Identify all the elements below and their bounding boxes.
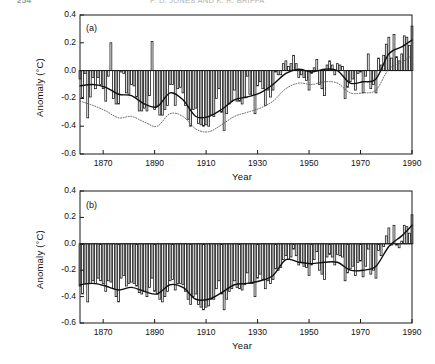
figure: Anomaly (°C) Year (a) -0.6-0.4-0.20.00.2…	[0, 0, 435, 364]
panel-b-y-axis-label: Anomaly (°C)	[34, 230, 45, 289]
panel-a-y-axis-label: Anomaly (°C)	[34, 58, 45, 117]
x-axis-tick-label: 1990	[392, 327, 432, 337]
y-axis-tick-label: -0.6	[46, 317, 76, 327]
y-axis-tick-label: 0.0	[46, 65, 76, 75]
panel-a-x-axis-label: Year	[232, 171, 252, 182]
x-axis-tick-label: 1890	[135, 327, 175, 337]
x-axis-tick-label: 1910	[186, 327, 226, 337]
y-axis-tick-label: 0.4	[46, 9, 76, 19]
x-axis-tick-label: 1970	[341, 327, 381, 337]
panel-a-tag: (a)	[86, 23, 97, 33]
x-axis-tick-label: 1910	[186, 158, 226, 168]
x-axis-tick-label: 1930	[238, 158, 278, 168]
panel-a: Anomaly (°C) Year (a) -0.6-0.4-0.20.00.2…	[0, 8, 435, 188]
y-axis-tick-label: -0.2	[46, 264, 76, 274]
x-axis-tick-label: 1930	[238, 327, 278, 337]
y-axis-tick-label: -0.4	[46, 291, 76, 301]
y-axis-tick-label: 0.2	[46, 211, 76, 221]
x-axis-tick-label: 1950	[289, 327, 329, 337]
x-axis-tick-label: 1970	[341, 158, 381, 168]
x-axis-tick-label: 1990	[392, 158, 432, 168]
y-axis-tick-label: 0.4	[46, 185, 76, 195]
panel-b: Anomaly (°C) Year (b) -0.6-0.4-0.20.00.2…	[0, 183, 435, 364]
y-axis-tick-label: -0.6	[46, 148, 76, 158]
x-axis-tick-label: 1870	[83, 327, 123, 337]
x-axis-tick-label: 1890	[135, 158, 175, 168]
x-axis-tick-label: 1870	[83, 158, 123, 168]
y-axis-tick-label: 0.0	[46, 238, 76, 248]
x-axis-tick-label: 1950	[289, 158, 329, 168]
panel-b-x-axis-label: Year	[232, 340, 252, 351]
panel-b-tag: (b)	[86, 200, 97, 210]
y-axis-tick-label: -0.4	[46, 120, 76, 130]
y-axis-tick-label: 0.2	[46, 37, 76, 47]
y-axis-tick-label: -0.2	[46, 92, 76, 102]
